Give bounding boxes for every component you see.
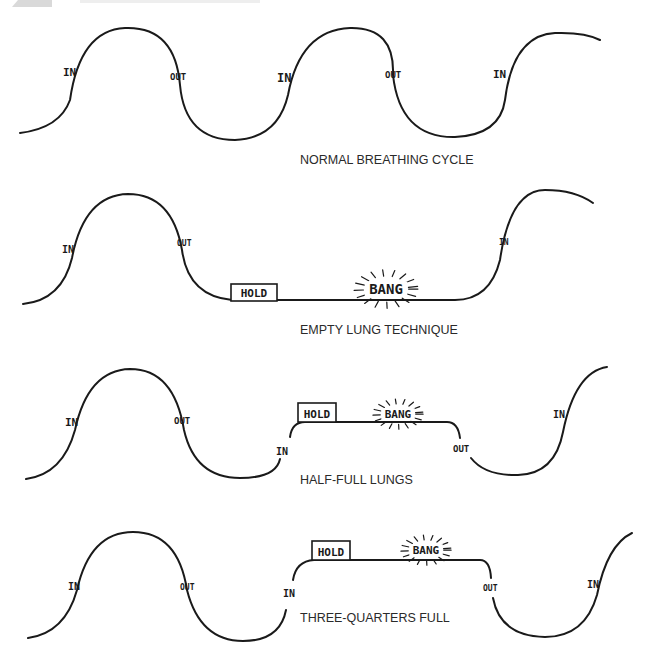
exhale-label: OUT <box>174 416 191 426</box>
inhale-label: IN <box>587 579 599 590</box>
hold-label: HOLD <box>318 546 345 559</box>
exhale-label: OUT <box>453 444 470 454</box>
exhale-label: OUT <box>385 70 402 80</box>
header-title-fragment <box>80 0 260 3</box>
breath-curve <box>20 28 600 140</box>
inhale-label: IN <box>277 71 291 85</box>
exhale-label: OUT <box>180 583 195 592</box>
panel-half: INOUTINOUTINHOLDBANGHALF-FULL LUNGS <box>26 367 607 487</box>
inhale-label: IN <box>283 588 295 599</box>
hold-label: HOLD <box>304 408 331 421</box>
bang-label: BANG <box>369 281 403 297</box>
header-tab-shape <box>12 0 52 7</box>
panel-empty: INOUTINHOLDBANGEMPTY LUNG TECHNIQUE <box>23 190 593 337</box>
panel-caption: EMPTY LUNG TECHNIQUE <box>300 323 458 337</box>
inhale-label: IN <box>553 409 565 420</box>
inhale-label: IN <box>62 244 74 255</box>
bang-label: BANG <box>385 408 412 421</box>
panel-three_quarters: INOUTINOUTINHOLDBANGTHREE-QUARTERS FULL <box>28 532 632 641</box>
panel-caption: THREE-QUARTERS FULL <box>300 611 450 625</box>
panel-caption: NORMAL BREATHING CYCLE <box>300 153 474 167</box>
inhale-label: IN <box>493 68 506 81</box>
inhale-label: IN <box>63 66 76 79</box>
breath-curve <box>23 190 593 304</box>
panel-normal: INOUTINOUTINNORMAL BREATHING CYCLE <box>20 28 600 167</box>
inhale-label: IN <box>276 446 288 457</box>
inhale-label: IN <box>65 416 78 429</box>
inhale-label: IN <box>68 581 80 592</box>
exhale-label: OUT <box>177 239 192 248</box>
exhale-label: OUT <box>483 584 498 593</box>
bang-label: BANG <box>413 544 440 557</box>
inhale-label: IN <box>499 238 509 247</box>
breathing-diagram: INOUTINOUTINNORMAL BREATHING CYCLEINOUTI… <box>0 0 653 663</box>
panel-caption: HALF-FULL LUNGS <box>300 473 413 487</box>
header-fragment <box>12 0 260 7</box>
diagram-panels: INOUTINOUTINNORMAL BREATHING CYCLEINOUTI… <box>20 28 632 641</box>
breath-curve <box>26 367 607 479</box>
hold-label: HOLD <box>241 287 268 300</box>
exhale-label: OUT <box>170 72 187 82</box>
